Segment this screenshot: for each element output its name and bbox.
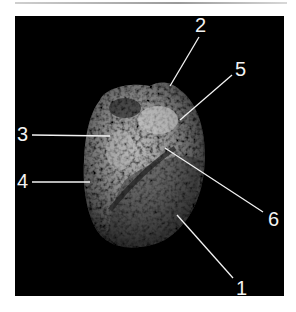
label-2: 2 bbox=[195, 15, 206, 35]
label-5: 5 bbox=[235, 59, 246, 79]
label-6: 6 bbox=[268, 209, 279, 229]
top-rule bbox=[15, 2, 287, 4]
label-4: 4 bbox=[17, 171, 28, 191]
label-1: 1 bbox=[236, 278, 247, 298]
label-3: 3 bbox=[17, 124, 28, 144]
